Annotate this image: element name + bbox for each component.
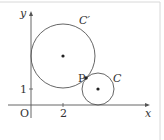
center-c (96, 87, 99, 90)
center-c-prime (61, 54, 64, 57)
coordinate-diagram: y x O 2 1 P C′ C (0, 0, 164, 140)
y-tick-label: 1 (20, 83, 27, 96)
diagram-frame: y x O 2 1 P C′ C (0, 0, 164, 140)
circle-c-label: C (113, 72, 122, 85)
y-axis-label: y (19, 7, 27, 20)
x-tick-label: 2 (60, 107, 67, 120)
point-p-label: P (78, 72, 86, 85)
origin-label: O (20, 107, 29, 120)
y-axis-arrow-icon (29, 11, 33, 16)
x-axis-label: x (145, 107, 152, 120)
circle-c-prime-label: C′ (79, 14, 90, 27)
